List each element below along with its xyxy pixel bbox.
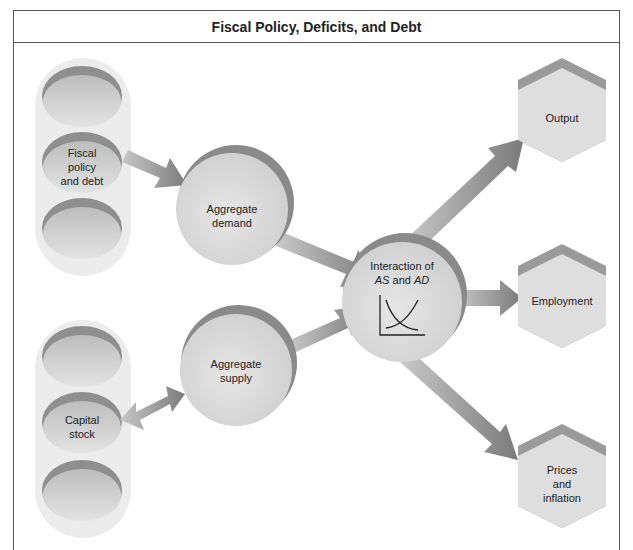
interaction-label: Interaction of AS and AD [370,259,434,287]
prices-label: Prices and inflation [543,463,581,505]
interaction-line1: Interaction of [370,259,434,273]
aggregate-supply-label: Aggregate supply [211,357,262,385]
interaction-node [342,233,467,362]
fiscal-policy-label: Fiscal policy and debt [61,146,104,188]
as-abbrev: AS [375,274,390,286]
capital-line2: stock [65,427,99,441]
prices-line1: Prices [543,463,581,477]
capital-line1: Capital [65,413,99,427]
aggregate-demand-label: Aggregate demand [207,202,258,230]
employment-label: Employment [531,294,592,308]
output-label: Output [545,111,578,125]
prices-line3: inflation [543,491,581,505]
fiscal-line2: policy [61,160,104,174]
as-line1: Aggregate [211,357,262,371]
prices-line2: and [543,477,581,491]
and-word: and [389,274,413,286]
fiscal-line3: and debt [61,174,104,188]
ad-line2: demand [207,216,258,230]
ad-line1: Aggregate [207,202,258,216]
as-line2: supply [211,371,262,385]
ad-abbrev: AD [414,274,429,286]
fiscal-line1: Fiscal [61,146,104,160]
output-node [518,58,606,162]
interaction-line2: AS and AD [370,273,434,287]
capital-stock-label: Capital stock [65,413,99,441]
